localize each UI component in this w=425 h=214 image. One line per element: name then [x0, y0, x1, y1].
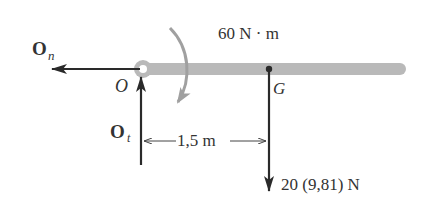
svg-text:O: O [32, 38, 47, 59]
svg-text:n: n [48, 48, 55, 63]
point-G-label: G [273, 79, 285, 98]
free-body-diagram: 60 N · m 1,5 m 20 (9,81) N O G O n O t [0, 0, 425, 214]
dimension-label: 1,5 m [177, 131, 216, 150]
weight-label: 20 (9,81) N [281, 175, 360, 194]
pin-O-icon [139, 65, 147, 73]
svg-text:t: t [127, 131, 131, 145]
force-On-label: O n [32, 38, 55, 63]
svg-text:O: O [110, 121, 125, 142]
moment-label: 60 N · m [218, 24, 279, 43]
force-Ot-label: O t [110, 121, 131, 145]
point-O-label: O [115, 76, 128, 96]
